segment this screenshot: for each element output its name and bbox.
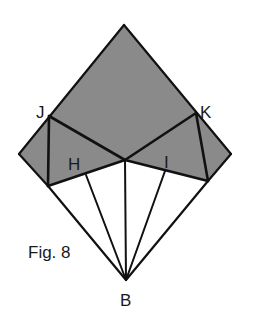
label-J: J [36,103,45,122]
outer-edge-lower-left [48,186,126,280]
figure-caption: Fig. 8 [28,243,71,262]
crease-center-to-B [125,160,126,280]
origami-fold-diagram: J K H I B Fig. 8 [0,0,254,326]
fold-line-J-vertical [48,116,49,186]
label-H: H [68,155,80,174]
label-I: I [164,153,169,172]
label-B: B [120,291,131,310]
crease-I-to-B [126,171,165,280]
crease-H-to-B [86,175,126,280]
outer-edge-lower-right [126,181,208,280]
label-K: K [200,103,212,122]
